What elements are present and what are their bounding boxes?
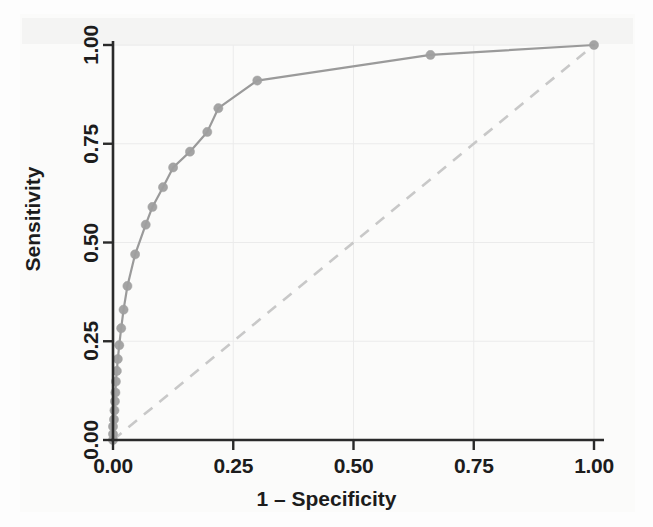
y-axis-title: Sensitivity: [21, 134, 45, 304]
roc-curve-figure: 1.00 0.75 0.50 0.25 0.00 0.00 0.25 0.50 …: [0, 0, 653, 527]
y-tick-label-0.50: 0.50: [79, 208, 103, 278]
y-tick-label-0.75: 0.75: [79, 109, 103, 179]
x-tick-label-1.00: 1.00: [554, 454, 634, 478]
roc-data-point: [169, 163, 178, 172]
roc-data-point: [113, 354, 122, 363]
roc-data-point: [253, 76, 262, 85]
roc-data-point: [426, 50, 435, 59]
roc-data-point: [203, 127, 212, 136]
roc-data-point: [131, 250, 140, 259]
roc-data-point: [123, 281, 132, 290]
x-tick-label-0.75: 0.75: [434, 454, 514, 478]
y-tick-label-0.25: 0.25: [79, 306, 103, 376]
roc-data-point: [158, 183, 167, 192]
roc-data-point: [214, 104, 223, 113]
roc-data-point: [185, 147, 194, 156]
roc-data-point: [141, 220, 150, 229]
x-tick-label-0.00: 0.00: [73, 454, 153, 478]
roc-data-point: [117, 324, 126, 333]
y-tick-label-1.00: 1.00: [79, 10, 103, 80]
x-tick-label-0.50: 0.50: [314, 454, 394, 478]
roc-data-point: [589, 40, 598, 49]
x-axis-title: 1 – Specificity: [0, 487, 653, 511]
roc-data-point: [119, 305, 128, 314]
x-tick-label-0.25: 0.25: [193, 454, 273, 478]
roc-data-point: [110, 406, 119, 415]
roc-data-point: [148, 202, 157, 211]
roc-data-point: [115, 341, 124, 350]
